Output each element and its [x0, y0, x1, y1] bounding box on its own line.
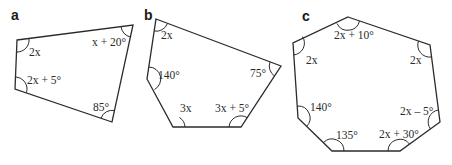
angle-label: 140° [310, 101, 332, 113]
angle-arc-icon [294, 37, 305, 56]
figure-label-b: b [144, 7, 153, 23]
angle-arc-icon [17, 39, 30, 53]
angle-label: x + 20° [92, 36, 126, 48]
angle-label: 2x + 10° [334, 29, 374, 41]
figure-b: b 2x 75° 3x + 5° 3x 140° [144, 7, 281, 127]
angle-arc-icon [180, 118, 186, 128]
angle-label: 2x [306, 54, 318, 66]
figure-label-a: a [11, 7, 19, 23]
figure-a: a 2x x + 20° 85° 2x + 5° [11, 7, 133, 122]
figure-c: c 2x + 10° 2x 2x – 5° 2x + 30° 135° 140°… [293, 8, 440, 151]
angle-label: 135° [336, 129, 358, 141]
angle-label: 2x [161, 29, 173, 41]
angle-label: 2x + 30° [379, 128, 419, 140]
polygon-figures: a 2x x + 20° 85° 2x + 5° b 2x 75° 3x + 5… [0, 0, 452, 165]
angle-label: 85° [93, 101, 110, 113]
angle-label: 2x [410, 54, 422, 66]
figure-label-c: c [302, 8, 310, 24]
angle-label: 140° [158, 69, 180, 81]
angle-arc-icon [388, 139, 410, 151]
angle-label: 3x + 5° [215, 102, 249, 114]
angle-label: 2x – 5° [400, 105, 434, 117]
angle-label: 3x [180, 102, 192, 114]
angle-label: 75° [250, 67, 267, 79]
angle-label: 2x + 5° [27, 74, 61, 86]
angle-arc-icon [269, 62, 274, 76]
angle-label: 2x [29, 46, 41, 58]
